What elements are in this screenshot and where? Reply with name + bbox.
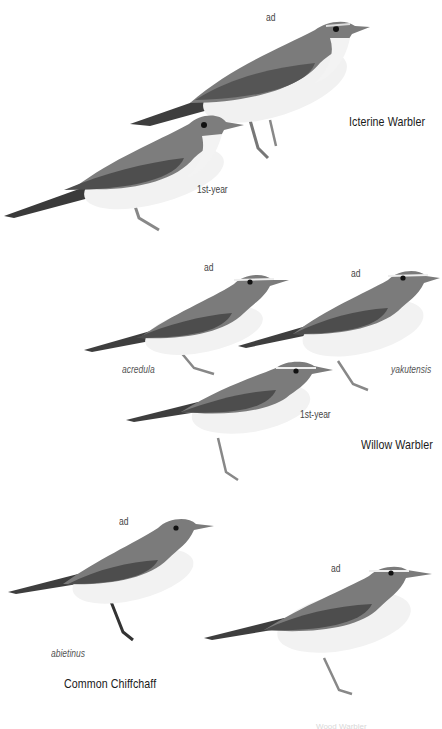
field-guide-plate: ad 1st-year Icterine Warbler ad ad acred…: [0, 0, 442, 729]
wood-warbler-illustration: [204, 560, 436, 700]
willow-acredula-subspecies-label: acredula: [122, 364, 155, 375]
willow-warbler-species-label: Willow Warbler: [361, 437, 433, 452]
willow-yakutensis-age-label: ad: [351, 268, 360, 279]
icterine-warbler-1st-year-illustration: [4, 108, 249, 238]
chiffchaff-adult-age-label: ad: [119, 516, 128, 527]
willow-warbler-1st-year-illustration: [126, 360, 336, 490]
willow-1st-year-age-label: 1st-year: [300, 409, 331, 420]
icterine-adult-age-label: ad: [266, 12, 275, 23]
willow-acredula-age-label: ad: [204, 262, 213, 273]
wood-warbler-adult-age-label: ad: [331, 563, 340, 574]
wood-warbler-species-label-clipped: Wood Warbler: [316, 722, 367, 729]
chiffchaff-abietinus-subspecies-label: abietinus: [51, 648, 85, 659]
icterine-1st-year-age-label: 1st-year: [197, 184, 228, 195]
common-chiffchaff-species-label: Common Chiffchaff: [64, 676, 156, 691]
common-chiffchaff-illustration: [8, 514, 218, 649]
willow-yakutensis-subspecies-label: yakutensis: [391, 364, 431, 375]
icterine-warbler-species-label: Icterine Warbler: [349, 114, 425, 129]
